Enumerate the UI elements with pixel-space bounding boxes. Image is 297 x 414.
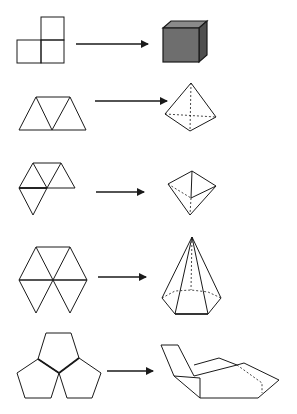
tetrahedron-solid <box>165 83 216 131</box>
net-hexagon-triangles <box>19 247 87 313</box>
square-pyramid-solid <box>168 171 216 215</box>
folded-pentagon-solid <box>161 345 279 398</box>
cube-solid <box>163 21 207 62</box>
row-1 <box>17 17 207 63</box>
net-three-pentagons <box>17 333 101 398</box>
net-five-triangles <box>19 163 75 215</box>
hexagonal-pyramid-solid <box>162 237 221 314</box>
net-three-squares <box>17 17 64 63</box>
net-triangle-strip <box>19 97 86 130</box>
row-4 <box>19 237 221 314</box>
row-3 <box>19 163 216 215</box>
row-2 <box>19 83 216 131</box>
diagram-svg <box>0 0 297 414</box>
row-5 <box>17 333 279 398</box>
diagram-canvas <box>0 0 297 414</box>
